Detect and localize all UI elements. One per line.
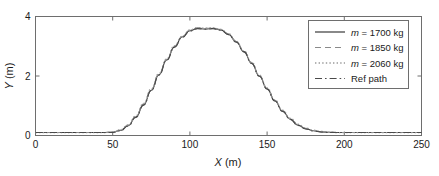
y-tick-label: 2: [25, 71, 31, 82]
legend-label: Ref path: [351, 73, 387, 84]
x-tick-label: 250: [413, 139, 430, 150]
x-tick-label: 150: [259, 139, 276, 150]
legend-label: m = 2060 kg: [351, 58, 404, 69]
x-axis-tick-labels: 050100150200250: [33, 139, 431, 150]
y-tick-label: 0: [25, 130, 31, 141]
x-axis-label: X (m): [214, 156, 242, 168]
x-tick-label: 200: [336, 139, 353, 150]
trajectory-plot: 050100150200250 024 X (m) Y (m) m = 1700…: [0, 0, 439, 176]
chart-figure: 050100150200250 024 X (m) Y (m) m = 1700…: [0, 0, 439, 176]
y-axis-tick-labels: 024: [25, 11, 31, 141]
legend-label: m = 1850 kg: [351, 42, 404, 53]
x-tick-label: 50: [107, 139, 119, 150]
y-tick-label: 4: [25, 11, 31, 22]
x-tick-label: 0: [33, 139, 39, 150]
legend-label: m = 1700 kg: [351, 27, 404, 38]
chart-legend: m = 1700 kgm = 1850 kgm = 2060 kgRef pat…: [309, 21, 409, 89]
x-tick-label: 100: [182, 139, 199, 150]
y-axis-label: Y (m): [3, 63, 15, 90]
